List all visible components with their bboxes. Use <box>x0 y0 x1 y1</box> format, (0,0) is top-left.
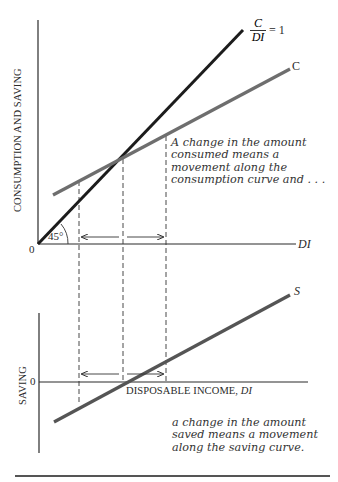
top-origin-label: 0 <box>29 243 35 255</box>
bottom-x-axis-label-italic: DI <box>241 385 252 396</box>
bottom-y-axis-label: SAVING <box>17 366 28 405</box>
top-x-axis-label: DI <box>298 237 311 252</box>
bottom-x-axis-label: DISPOSABLE INCOME, DI <box>126 385 252 396</box>
fraction-numerator: C <box>250 16 266 31</box>
bottom-x-axis-label-text: DISPOSABLE INCOME, <box>126 385 238 396</box>
fraction-equals: = 1 <box>269 23 285 38</box>
angle-45-label: 45° <box>48 230 63 242</box>
top-annotation: A change in the amount consumed means a … <box>171 137 325 187</box>
bottom-annotation: a change in the amount saved means a mov… <box>172 417 318 454</box>
fraction-denominator: DI <box>250 30 266 45</box>
top-y-axis-label: CONSUMPTION AND SAVING <box>12 68 23 212</box>
bottom-origin-label: 0 <box>30 375 36 387</box>
consumption-curve-label: C <box>292 59 300 74</box>
saving-curve-label: S <box>294 284 300 299</box>
saving-curve <box>54 295 290 422</box>
line-45-label: C DI = 1 <box>250 16 310 44</box>
